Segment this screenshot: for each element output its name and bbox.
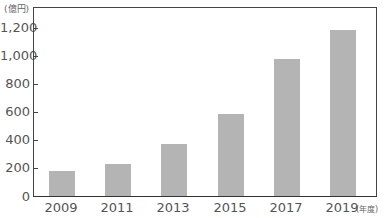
bar-2015	[218, 114, 244, 196]
x-tick-label-2013: 2013	[148, 200, 198, 215]
plot-area	[33, 7, 377, 197]
y-tick-label-0: 0	[0, 189, 30, 204]
bar-2017	[274, 59, 300, 196]
y-tick-label-600: 600	[0, 104, 30, 119]
y-tick	[34, 168, 38, 169]
bar-2019	[330, 30, 356, 196]
y-tick	[34, 140, 38, 141]
y-axis-unit: (億円)	[4, 2, 29, 15]
y-tick-label-800: 800	[0, 76, 30, 91]
y-tick	[34, 56, 38, 57]
y-tick-label-200: 200	[0, 160, 30, 175]
y-tick-label-400: 400	[0, 132, 30, 147]
y-tick	[34, 112, 38, 113]
x-tick-label-2011: 2011	[92, 200, 142, 215]
bar-2011	[105, 164, 131, 196]
bar-2009	[49, 171, 75, 196]
x-tick-label-2015: 2015	[205, 200, 255, 215]
y-tick-label-1200: 1,200	[0, 20, 30, 35]
x-tick-label-2009: 2009	[36, 200, 86, 215]
bar-2013	[161, 144, 187, 196]
y-tick	[34, 84, 38, 85]
x-tick-label-2017: 2017	[261, 200, 311, 215]
y-tick-label-1000: 1,000	[0, 48, 30, 63]
y-tick	[34, 28, 38, 29]
x-axis-unit: (年度)	[356, 203, 378, 214]
